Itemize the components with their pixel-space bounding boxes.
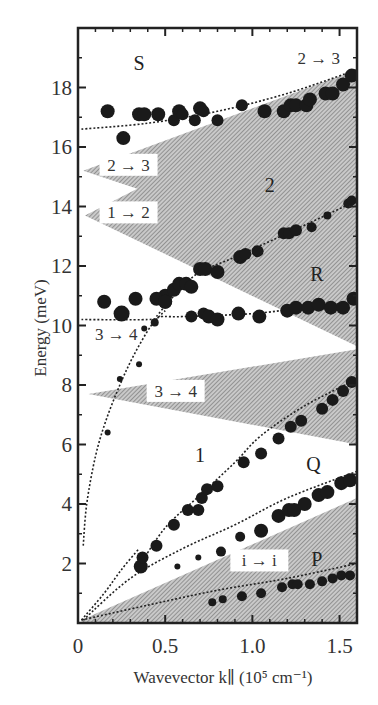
- data-point-steep: [105, 430, 111, 436]
- data-point-1: [238, 456, 250, 468]
- data-point-steep: [151, 319, 159, 327]
- y-tick-label: 4: [62, 492, 73, 516]
- data-point-1: [316, 403, 328, 415]
- transition-label: 1 → 2: [107, 203, 150, 222]
- data-point-P: [345, 570, 355, 580]
- y-tick-label: 6: [62, 433, 73, 457]
- data-point-P: [317, 576, 327, 586]
- data-point-R: [312, 298, 326, 312]
- transition-label: 2 → 3: [297, 49, 340, 68]
- data-point-2: [198, 262, 212, 276]
- data-point-1: [150, 540, 162, 552]
- region-label-P: P: [311, 548, 322, 570]
- data-point-1: [255, 447, 267, 459]
- data-point-P: [208, 598, 216, 606]
- y-axis-title: Energy (meV): [31, 279, 50, 376]
- region-label-R: R: [310, 263, 324, 285]
- y-tick-label: 12: [51, 254, 72, 278]
- data-point-Q: [320, 485, 334, 499]
- data-point-1: [212, 480, 224, 492]
- data-point-Q: [343, 473, 357, 487]
- y-tick-label: 8: [62, 373, 73, 397]
- data-point-S: [303, 92, 317, 106]
- data-point-S: [198, 105, 210, 117]
- data-point-1: [327, 394, 339, 406]
- data-point-steep: [141, 325, 147, 331]
- data-point-1: [137, 552, 149, 564]
- data-point-2: [307, 222, 317, 232]
- y-tick-label: 10: [51, 314, 72, 338]
- x-tick-label: 1.0: [239, 634, 265, 658]
- transition-label: i → i: [242, 551, 277, 570]
- data-point-R: [185, 311, 197, 323]
- data-point-P: [237, 591, 247, 601]
- data-point-Q: [174, 563, 180, 569]
- continuum-regions: [81, 70, 357, 623]
- data-point-P: [336, 570, 346, 580]
- data-point-R: [129, 292, 143, 306]
- data-point-Q: [195, 555, 201, 561]
- data-point-S: [101, 104, 115, 118]
- data-point-2: [184, 280, 198, 294]
- y-tick-label: 16: [51, 135, 72, 159]
- transition-label: 2 → 3: [107, 156, 150, 175]
- data-point-2: [347, 196, 357, 206]
- data-point-1: [182, 504, 194, 516]
- data-point-R: [158, 295, 172, 309]
- data-point-P: [256, 588, 266, 598]
- data-point-2: [211, 265, 225, 279]
- y-tick-label: 14: [51, 195, 73, 219]
- data-point-1: [273, 433, 285, 445]
- data-point-R: [114, 306, 130, 322]
- data-point-2: [239, 248, 251, 260]
- data-point-R: [97, 295, 111, 309]
- data-point-Q: [254, 524, 268, 538]
- data-point-S: [116, 131, 130, 145]
- x-tick-label: 0: [73, 634, 84, 658]
- data-point-2: [290, 224, 302, 236]
- region-label-1: 1: [195, 444, 205, 466]
- data-point-steep: [117, 376, 123, 382]
- data-point-R: [252, 310, 266, 324]
- region-label-Q: Q: [306, 453, 321, 475]
- data-point-1: [201, 483, 213, 495]
- data-point-steep: [136, 361, 142, 367]
- data-point-P: [293, 579, 303, 589]
- data-point-P: [277, 582, 287, 592]
- x-axis-title: Wavevector k∥ (10⁵ cm⁻¹): [134, 668, 313, 687]
- data-point-R: [324, 301, 338, 315]
- y-tick-label: 18: [51, 76, 72, 100]
- data-point-R: [231, 307, 245, 321]
- curve-steep-plasmon: [83, 311, 165, 546]
- data-point-S: [189, 114, 201, 126]
- data-point-1: [168, 519, 180, 531]
- data-point-R: [347, 292, 361, 306]
- region-label-S: S: [133, 52, 144, 74]
- data-point-S: [258, 104, 272, 118]
- data-point-P: [328, 573, 338, 583]
- x-tick-label: 0.5: [152, 634, 178, 658]
- data-point-Q: [235, 532, 245, 542]
- data-point-Q: [216, 547, 226, 557]
- chart-figure: S2R1QP2 → 32 → 31 → 23 → 43 → 4i → i 246…: [0, 0, 378, 705]
- data-point-1: [295, 415, 307, 427]
- region-label-2: 2: [265, 174, 275, 196]
- data-point-R: [289, 301, 303, 315]
- data-point-2: [323, 211, 331, 219]
- data-point-S: [236, 99, 248, 111]
- data-point-1: [192, 504, 204, 516]
- data-point-1: [285, 421, 297, 433]
- data-point-S: [212, 114, 224, 126]
- data-point-S: [177, 108, 189, 120]
- data-point-R: [211, 313, 225, 327]
- y-tick-label: 2: [62, 552, 73, 576]
- data-point-S: [151, 107, 165, 121]
- transition-label: 3 → 4: [154, 382, 197, 401]
- data-point-1: [337, 385, 349, 397]
- data-point-P: [219, 595, 227, 603]
- data-point-S: [137, 107, 151, 121]
- data-point-Q: [298, 497, 312, 511]
- data-point-2: [252, 245, 264, 257]
- transition-label: 3 → 4: [95, 325, 138, 344]
- x-tick-label: 1.5: [326, 634, 352, 658]
